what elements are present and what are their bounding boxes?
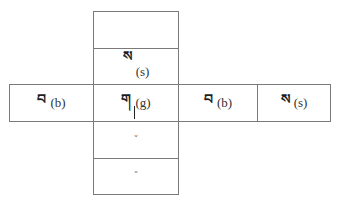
- row-cell-suffix: བ (b): [178, 84, 258, 122]
- small-mark: ˇ: [134, 135, 139, 146]
- tibetan-letter-sa: ས: [281, 83, 290, 123]
- latin-transliteration: (s): [136, 64, 150, 80]
- column-cell-superscript: ས (s): [93, 48, 179, 85]
- latin-transliteration: (b): [217, 95, 232, 111]
- tibetan-letter-ba: བ: [204, 83, 213, 123]
- column-cell-top-empty: [93, 11, 179, 49]
- tibetan-letter-ga: ག: [121, 83, 131, 123]
- tibetan-letter-sa: ས: [123, 40, 132, 80]
- tibetan-letter-ba: བ: [37, 83, 46, 123]
- vowel-stem-mark: [134, 106, 135, 119]
- row-cell-prefix: བ (b): [9, 84, 94, 122]
- latin-transliteration: (g): [135, 95, 150, 111]
- column-cell-subscript-1: ˇ: [93, 121, 179, 159]
- row-cell-root: ག (g): [93, 84, 179, 122]
- column-cell-subscript-2: ˇ: [93, 158, 179, 195]
- latin-transliteration: (b): [50, 95, 65, 111]
- small-mark: ˇ: [134, 171, 139, 182]
- latin-transliteration: (s): [294, 95, 308, 111]
- row-cell-post-suffix: ས (s): [257, 84, 331, 122]
